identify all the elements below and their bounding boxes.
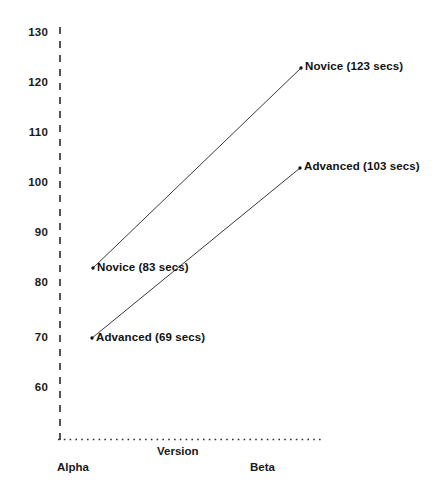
y-tick-label-110: 110 [8,126,48,138]
point-label-novice-alpha: Novice (83 secs) [97,261,189,273]
y-tick-label-120: 120 [8,76,48,88]
y-tick-label-90: 90 [8,226,48,238]
point-label-advanced-beta: Advanced (103 secs) [304,160,420,172]
x-axis-title: Version [157,445,199,457]
x-category-label-beta: Beta [250,461,275,473]
plot-canvas [0,0,439,497]
y-tick-label-60: 60 [8,381,48,393]
data-point-advanced-alpha [90,336,93,339]
series-line-novice [93,68,301,268]
x-category-label-alpha: Alpha [57,461,89,473]
point-label-advanced-alpha: Advanced (69 secs) [96,331,205,343]
y-tick-label-100: 100 [8,176,48,188]
series-line-advanced [92,168,300,338]
y-tick-label-80: 80 [8,276,48,288]
interaction-plot: 130 120 110 100 90 80 70 60 Novice (123 … [0,0,439,497]
y-tick-label-70: 70 [8,331,48,343]
data-point-novice-alpha [91,266,94,269]
data-point-novice-beta [299,66,302,69]
point-label-novice-beta: Novice (123 secs) [305,60,403,72]
data-point-advanced-beta [298,166,301,169]
y-tick-label-130: 130 [8,26,48,38]
